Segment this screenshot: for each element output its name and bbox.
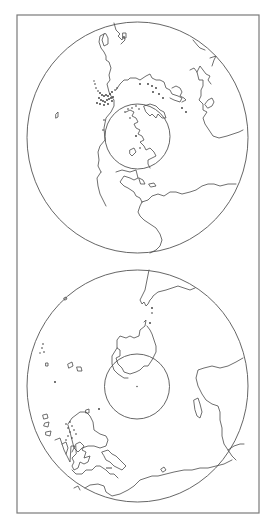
north-cuba bbox=[139, 178, 145, 184]
north-small-island-left bbox=[56, 112, 58, 118]
north-kamchatka bbox=[197, 66, 211, 84]
north-south-america bbox=[138, 202, 162, 253]
south-indonesia-dots bbox=[65, 421, 77, 441]
south-islet-a bbox=[46, 363, 48, 366]
north-scandinavia bbox=[102, 34, 108, 46]
south-globe-outline bbox=[27, 270, 248, 502]
north-caribbean-island bbox=[149, 183, 156, 187]
north-canada-archipelago bbox=[126, 110, 156, 168]
north-asia-peninsula bbox=[205, 98, 214, 108]
south-bottom-left-stub bbox=[74, 486, 80, 490]
south-pole-point bbox=[136, 386, 137, 387]
north-arctic-islands bbox=[139, 83, 164, 99]
polar-maps-figure bbox=[0, 0, 272, 527]
northern-hemisphere-map bbox=[27, 22, 248, 253]
south-sumatra-java bbox=[102, 450, 126, 470]
southern-hemisphere-map bbox=[27, 270, 248, 502]
south-asia-south-coast bbox=[85, 460, 232, 496]
south-america-tip bbox=[140, 270, 195, 306]
south-africa bbox=[196, 358, 243, 460]
south-left-island-dots bbox=[39, 343, 100, 410]
north-asia-coast bbox=[190, 40, 243, 138]
north-america-west-coast bbox=[97, 172, 106, 206]
south-sri-lanka bbox=[161, 467, 166, 472]
north-atlantic-south-coast bbox=[142, 184, 236, 202]
south-madagascar bbox=[194, 398, 202, 418]
south-islet-c bbox=[77, 367, 82, 371]
north-central-america bbox=[116, 170, 142, 202]
south-islet-b bbox=[68, 362, 73, 368]
north-inner-circle bbox=[105, 104, 170, 169]
south-tiny-islands bbox=[106, 467, 112, 469]
south-antarctic-peninsula bbox=[116, 320, 156, 374]
north-hudson-bay bbox=[130, 148, 136, 156]
north-arctic-peninsula bbox=[172, 86, 186, 102]
